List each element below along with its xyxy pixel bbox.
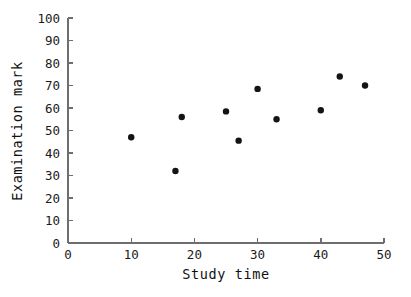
y-tick-label: 10 <box>45 213 60 228</box>
y-tick-label: 70 <box>45 78 60 93</box>
data-point <box>318 107 324 113</box>
data-point <box>235 137 241 143</box>
axes-group <box>68 18 384 243</box>
y-tick-label: 80 <box>45 56 60 71</box>
y-tick-label: 30 <box>45 168 60 183</box>
data-point <box>172 168 178 174</box>
y-tick-label: 20 <box>45 191 60 206</box>
data-point <box>273 116 279 122</box>
data-point <box>337 73 343 79</box>
y-tick-label: 50 <box>45 123 60 138</box>
x-tick-label: 10 <box>124 247 139 262</box>
y-tick-label: 100 <box>37 11 60 26</box>
x-tick-label: 0 <box>64 247 72 262</box>
scatter-chart-figure: 0102030405060708090100 01020304050 Study… <box>0 0 411 297</box>
y-tick-label: 0 <box>52 236 60 251</box>
data-point <box>254 86 260 92</box>
data-point <box>128 134 134 140</box>
x-tick-label: 30 <box>250 247 265 262</box>
data-points-group <box>128 73 368 174</box>
x-axis-title: Study time <box>182 266 269 282</box>
plot-canvas: 0102030405060708090100 01020304050 Study… <box>0 0 411 297</box>
y-tick-label: 40 <box>45 146 60 161</box>
x-tick-label: 40 <box>313 247 328 262</box>
x-tick-label: 20 <box>187 247 202 262</box>
y-tick-label: 60 <box>45 101 60 116</box>
data-point <box>362 82 368 88</box>
data-point <box>179 114 185 120</box>
y-tick-label: 90 <box>45 33 60 48</box>
x-axis-ticks: 01020304050 <box>64 238 391 262</box>
y-axis-title: Examination mark <box>9 61 25 201</box>
x-tick-label: 50 <box>376 247 391 262</box>
data-point <box>223 108 229 114</box>
